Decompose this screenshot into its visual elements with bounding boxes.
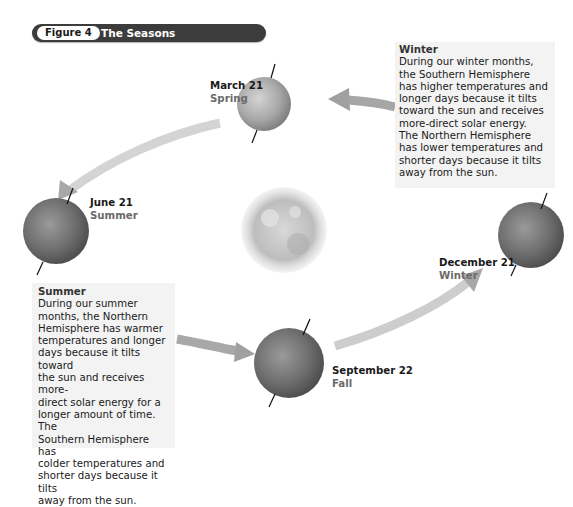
summer-text-line: Hemisphere has warmer — [38, 323, 169, 335]
season-fall: Fall — [332, 378, 413, 391]
date-june: June 21 — [90, 197, 138, 210]
winter-info-box: Winter During our winter months, the Sou… — [395, 42, 555, 188]
orbit-arrow-december-march — [328, 88, 395, 111]
winter-text-line: longer days because it tilts — [399, 93, 551, 105]
summer-text-line: away from the sun. — [38, 495, 169, 507]
orbit-arrow-june-september — [177, 339, 255, 362]
winter-text-line: more-direct solar energy. — [399, 118, 551, 130]
summer-text-line: colder temperatures and — [38, 458, 169, 470]
summer-text-line: the sun and receives more- — [38, 372, 169, 397]
summer-text-line: During our summer — [38, 298, 169, 310]
winter-text-line: the Southern Hemisphere — [399, 69, 551, 81]
winter-text-line: away from the sun. — [399, 167, 551, 179]
winter-text-line: The Northern Hemisphere — [399, 130, 551, 142]
summer-text-line: longer amount of time. The — [38, 409, 169, 434]
winter-text-line: During our winter months, — [399, 56, 551, 68]
winter-text-line: toward the sun and receives — [399, 105, 551, 117]
label-june: June 21 Summer — [90, 197, 138, 222]
label-december: December 21 Winter — [439, 257, 515, 282]
label-september: September 22 Fall — [332, 365, 413, 390]
summer-text-line: months, the Northern — [38, 311, 169, 323]
date-september: September 22 — [332, 365, 413, 378]
summer-text-line: shorter days because it tilts — [38, 470, 169, 495]
season-winter: Winter — [439, 270, 515, 283]
summer-info-box: Summer During our summer months, the Nor… — [32, 283, 175, 448]
summer-box-title: Summer — [38, 286, 169, 298]
winter-text-line: has higher temperatures and — [399, 81, 551, 93]
summer-text-line: Southern Hemisphere has — [38, 434, 169, 459]
winter-box-title: Winter — [399, 44, 551, 56]
season-summer: Summer — [90, 210, 138, 223]
earth-june — [23, 188, 89, 275]
winter-text-line: shorter days because it tilts — [399, 155, 551, 167]
date-december: December 21 — [439, 257, 515, 270]
earth-september — [254, 319, 324, 407]
summer-text-line: temperatures and longer — [38, 335, 169, 347]
summer-text-line: days because it tilts toward — [38, 347, 169, 372]
winter-text-line: has lower temperatures and — [399, 142, 551, 154]
date-march: March 21 — [210, 80, 263, 93]
summer-text-line: direct solar energy for a — [38, 397, 169, 409]
label-march: March 21 Spring — [210, 80, 263, 105]
season-spring: Spring — [210, 93, 263, 106]
orbit-arrow-march-june — [58, 123, 220, 200]
sun-image — [241, 187, 327, 273]
